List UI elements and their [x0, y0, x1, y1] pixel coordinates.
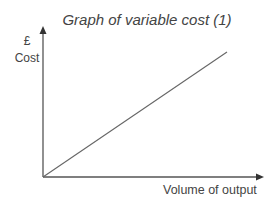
variable-cost-line: [43, 52, 227, 177]
y-axis: [40, 26, 47, 177]
x-axis-arrow-icon: [256, 174, 264, 181]
y-axis-arrow-icon: [40, 26, 47, 34]
plot-area: [0, 0, 276, 212]
x-axis: [43, 174, 264, 181]
